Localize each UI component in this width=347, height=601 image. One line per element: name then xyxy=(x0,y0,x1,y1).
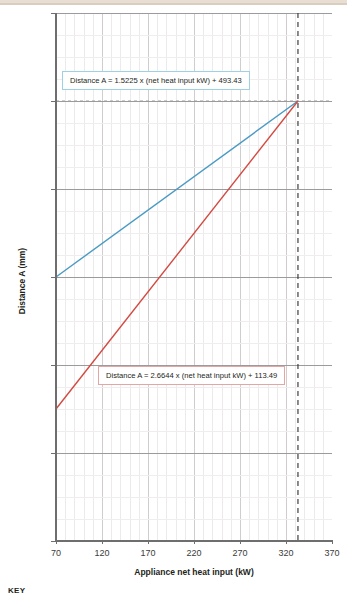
x-tick-320: 320 xyxy=(266,549,306,558)
x-tick-270: 270 xyxy=(220,549,260,558)
x-tick-370: 370 xyxy=(312,549,347,558)
y-tickmark-400 xyxy=(51,365,56,366)
plot-area xyxy=(56,13,332,541)
x-axis-title: Appliance net heat input (kW) xyxy=(56,567,332,577)
x-tickmark-320 xyxy=(286,540,287,544)
x-tick-170: 170 xyxy=(128,549,168,558)
y-tickmark-1000 xyxy=(51,101,56,102)
y-tickmark-800 xyxy=(51,189,56,190)
x-tickmark-70 xyxy=(56,540,57,544)
data-series-layer xyxy=(56,13,332,541)
chart-figure: 1200 1000 800 600 400 200 0 70 120 170 2… xyxy=(0,0,347,601)
annotation-blue-equation: Distance A = 1.5225 x (net heat input kW… xyxy=(62,71,250,90)
y-axis-title: Distance A (mm) xyxy=(17,211,27,351)
y-tickmark-600 xyxy=(51,277,56,278)
x-tickmark-170 xyxy=(148,540,149,544)
series-line-blue xyxy=(56,101,298,277)
x-tickmark-120 xyxy=(102,540,103,544)
key-heading: KEY xyxy=(8,586,25,595)
y-tickmark-200 xyxy=(51,453,56,454)
x-tickmark-370 xyxy=(332,540,333,544)
y-tickmark-1200 xyxy=(51,13,56,14)
x-tick-70: 70 xyxy=(36,549,76,558)
annotation-red-equation: Distance A = 2.6644 x (net heat input kW… xyxy=(98,366,285,385)
series-line-red xyxy=(56,101,298,409)
x-tickmark-270 xyxy=(240,540,241,544)
x-tick-220: 220 xyxy=(174,549,214,558)
x-tickmark-220 xyxy=(194,540,195,544)
x-tick-120: 120 xyxy=(82,549,122,558)
